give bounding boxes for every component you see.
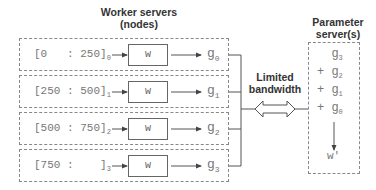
sum-term: + g2 [317,65,343,80]
sum-term: g3 [317,47,343,62]
bidirectional-arrow-icon [255,101,295,117]
sum-term: + g1 [317,83,343,98]
updated-weights: w' [327,150,340,162]
sum-term: + g0 [317,101,343,116]
